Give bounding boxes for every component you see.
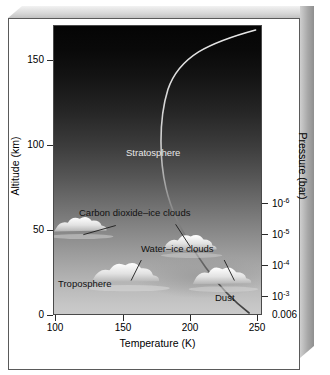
annotation-dust: Dust: [215, 292, 235, 303]
pressure-mantissa-1e-6: 10: [272, 198, 283, 209]
y-tick-50: [47, 230, 53, 231]
x-axis-title: Temperature (K): [53, 337, 262, 349]
pressure-tick-1e-6: [262, 203, 268, 204]
x-tick-150: [123, 315, 124, 321]
pressure-label-1e-6: 10-6: [272, 197, 289, 209]
x-label-200: 200: [170, 322, 210, 333]
pressure-axis-title: Pressure (bar): [297, 121, 309, 211]
pressure-label-1e-5: 10-5: [272, 228, 289, 240]
pressure-mantissa-1e-5: 10: [272, 229, 283, 240]
y-label-150: 150: [8, 54, 44, 65]
pressure-mantissa-1e-3: 10: [272, 291, 283, 302]
pressure-label-surface: 0.006: [272, 309, 297, 320]
y-label-0: 0: [8, 309, 44, 320]
pressure-mantissa-1e-4: 10: [272, 260, 283, 271]
y-tick-0: [47, 315, 53, 316]
x-tick-100: [55, 315, 56, 321]
annotation-water-ice-clouds: Water–ice clouds: [141, 243, 214, 254]
co2-cloud-left: [54, 217, 113, 239]
plot-canvas: [54, 26, 261, 314]
annotation-co2-ice-clouds: Carbon dioxide–ice clouds: [79, 207, 190, 218]
x-label-250: 250: [237, 322, 277, 333]
mars-atmosphere-figure: Stratosphere Troposphere Carbon dioxide–…: [0, 0, 330, 375]
frame-bevel-top: [8, 6, 314, 18]
pressure-label-1e-4: 10-4: [272, 259, 289, 271]
pressure-tick-1e-5: [262, 234, 268, 235]
x-tick-200: [190, 315, 191, 321]
y-tick-150: [47, 60, 53, 61]
pressure-label-1e-3: 10-3: [272, 290, 289, 302]
annotation-stratosphere: Stratosphere: [126, 147, 180, 158]
plot-area: Stratosphere Troposphere Carbon dioxide–…: [53, 25, 262, 315]
x-tick-250: [257, 315, 258, 321]
pressure-exponent-1e-6: -6: [283, 197, 289, 204]
pressure-exponent-1e-4: -4: [283, 259, 289, 266]
pressure-tick-1e-3: [262, 296, 268, 297]
y-label-50: 50: [8, 224, 44, 235]
x-label-100: 100: [35, 322, 75, 333]
annotation-troposphere: Troposphere: [58, 278, 112, 289]
pressure-tick-1e-4: [262, 265, 268, 266]
y-axis-title: Altitude (km): [9, 121, 21, 211]
y-tick-100: [47, 145, 53, 146]
pressure-exponent-1e-5: -5: [283, 228, 289, 235]
pressure-exponent-1e-3: -3: [283, 290, 289, 297]
x-label-150: 150: [103, 322, 143, 333]
